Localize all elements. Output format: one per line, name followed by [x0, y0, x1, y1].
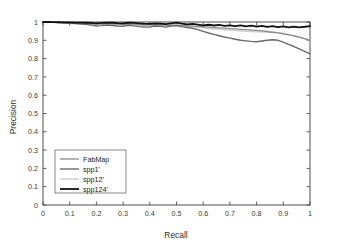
x-tick-label: 0.2 — [91, 209, 101, 218]
x-tick-label: 0.5 — [172, 209, 182, 218]
x-tick-label: 0 — [41, 209, 45, 218]
precision-recall-chart: 00.10.20.30.40.50.60.70.80.91 00.10.20.3… — [0, 0, 337, 250]
x-tick-label: 0.3 — [118, 209, 128, 218]
x-tick-label: 0.6 — [198, 209, 208, 218]
y-tick-label: 0.8 — [28, 54, 38, 63]
chart-legend[interactable]: FabMapspp1'spp12'spp124' — [55, 150, 126, 194]
x-tick-label: 0.7 — [225, 209, 235, 218]
y-tick-label: 0.3 — [28, 146, 38, 155]
x-tick-label: 0.9 — [278, 209, 288, 218]
figure-container: 00.10.20.30.40.50.60.70.80.91 00.10.20.3… — [0, 0, 337, 250]
x-tick-label: 1 — [308, 209, 312, 218]
y-tick-label: 0.9 — [28, 36, 38, 45]
y-tick-label: 0.7 — [28, 73, 38, 82]
x-tick-label: 0.8 — [252, 209, 262, 218]
y-tick-label: 1 — [34, 18, 38, 27]
x-axis-title: Recall — [164, 230, 187, 240]
legend-label-0: FabMap — [83, 155, 109, 164]
y-tick-label: 0.4 — [28, 127, 38, 136]
y-tick-label: 0.6 — [28, 91, 38, 100]
legend-label-3: spp124' — [83, 185, 109, 194]
y-tick-label: 0 — [34, 201, 38, 210]
y-tick-label: 0.1 — [28, 182, 38, 191]
y-tick-label: 0.2 — [28, 164, 38, 173]
legend-label-1: spp1' — [83, 165, 101, 174]
y-tick-label: 0.5 — [28, 109, 38, 118]
y-axis-title: Precision — [8, 99, 18, 134]
x-tick-label: 0.4 — [145, 209, 155, 218]
x-tick-label: 0.1 — [65, 209, 75, 218]
legend-label-2: spp12' — [83, 175, 105, 184]
